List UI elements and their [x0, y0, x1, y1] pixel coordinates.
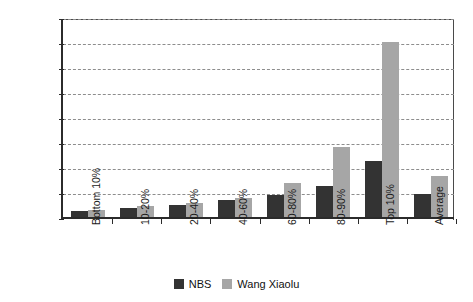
legend-item: NBS — [174, 278, 212, 290]
chart-legend: NBSWang Xiaolu — [0, 278, 473, 290]
bar-nbs — [71, 211, 88, 217]
bar-nbs — [267, 195, 284, 218]
x-axis-category-label: Average — [434, 186, 445, 225]
bar-nbs — [120, 208, 137, 217]
x-axis-tick — [112, 219, 113, 224]
legend-swatch-icon — [222, 279, 232, 289]
x-axis-category-label: Top 10% — [385, 184, 396, 225]
legend-label: NBS — [189, 278, 212, 290]
bar-nbs — [414, 194, 431, 217]
bar-group — [260, 19, 309, 217]
bar-chart: 0200004000060000800001000001200001400001… — [0, 0, 473, 302]
x-axis-tick — [161, 219, 162, 224]
x-axis-category-label: 40-60% — [238, 189, 249, 225]
x-axis-category-label: 10-20% — [140, 189, 151, 225]
legend-item: Wang Xiaolu — [222, 278, 299, 290]
x-axis-tick — [210, 219, 211, 224]
bar-group — [309, 19, 358, 217]
bar-group — [358, 19, 407, 217]
bar-group — [112, 19, 161, 217]
bar-nbs — [365, 161, 382, 217]
x-axis-tick — [260, 219, 261, 224]
bar-group — [407, 19, 456, 217]
legend-swatch-icon — [174, 279, 184, 289]
x-axis-tick — [407, 219, 408, 224]
x-axis-category-label: 60-80% — [287, 189, 298, 225]
bar-group — [161, 19, 210, 217]
x-axis-category-label: 20-40% — [189, 189, 200, 225]
legend-label: Wang Xiaolu — [237, 278, 299, 290]
bar-nbs — [316, 186, 333, 217]
y-axis-tick — [59, 219, 64, 220]
x-axis-tick — [309, 219, 310, 224]
x-axis-tick — [358, 219, 359, 224]
x-axis-category-label: Bottom 10% — [91, 168, 102, 225]
bar-group — [210, 19, 259, 217]
x-axis-category-label: 80-90% — [336, 189, 347, 225]
bar-group — [63, 19, 112, 217]
bar-nbs — [218, 200, 235, 217]
x-axis-tick — [456, 219, 457, 224]
bar-nbs — [169, 205, 186, 217]
